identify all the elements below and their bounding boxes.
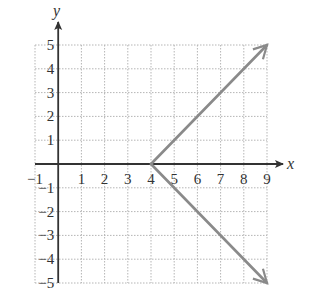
- x-tick-label: 3: [124, 171, 132, 187]
- y-tick-label: 1: [47, 132, 55, 148]
- y-tick-label: 5: [47, 37, 55, 53]
- x-tick-label: 9: [263, 171, 271, 187]
- x-axis-label: x: [286, 155, 294, 172]
- y-tick-label: −5: [38, 275, 54, 291]
- x-tick-label: 6: [194, 171, 202, 187]
- axes: [35, 22, 283, 283]
- x-tick-label: 4: [147, 171, 155, 187]
- x-tick-label: 2: [101, 171, 109, 187]
- y-tick-label: −3: [38, 227, 54, 243]
- y-tick-label: −2: [38, 204, 54, 220]
- x-tick-label: 8: [240, 171, 248, 187]
- y-tick-label: −1: [38, 180, 54, 196]
- y-tick-label: 3: [47, 85, 55, 101]
- x-tick-label: 1: [78, 171, 86, 187]
- y-tick-label: −4: [38, 251, 54, 267]
- x-tick-label: 7: [217, 171, 225, 187]
- y-tick-label: 2: [47, 108, 55, 124]
- ray-line: [151, 45, 267, 164]
- coordinate-plane: −112345678954321−1−2−3−4−5 x y: [0, 0, 310, 303]
- y-tick-label: 4: [47, 61, 55, 77]
- y-axis-label: y: [51, 2, 61, 20]
- ray-line: [151, 164, 267, 283]
